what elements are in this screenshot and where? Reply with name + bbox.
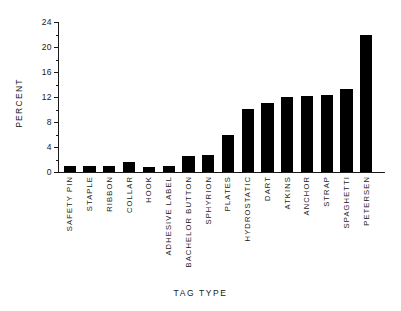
- y-axis-major-tick: [54, 72, 58, 73]
- bar: [301, 96, 313, 172]
- y-axis-tick-label: 0: [28, 168, 52, 177]
- x-axis-tick-label: STAPLE: [84, 176, 95, 276]
- bar: [182, 156, 194, 172]
- y-axis-major-tick: [54, 47, 58, 48]
- x-axis-tick-label: HOOK: [143, 176, 154, 276]
- y-axis-line: [58, 22, 59, 173]
- bar: [202, 155, 214, 172]
- x-axis-tick-label: SPHYRION: [203, 176, 214, 276]
- bar: [321, 95, 333, 173]
- y-axis-tick-label: 12: [28, 93, 52, 102]
- bar: [222, 135, 234, 173]
- bar: [242, 109, 254, 172]
- bar: [123, 162, 135, 172]
- x-axis-tick-label: ATKINS: [282, 176, 293, 276]
- y-axis-minor-tick: [56, 160, 59, 161]
- x-axis-tick-label: HYDROSTATIC: [242, 176, 253, 276]
- y-axis-tick-labels: 04812162024: [28, 0, 52, 311]
- y-axis-major-tick: [54, 172, 58, 173]
- y-axis-tick-label: 20: [28, 43, 52, 52]
- x-axis-tick-label: COLLAR: [124, 176, 135, 276]
- x-axis-tick-label: RIBBON: [104, 176, 115, 276]
- y-axis-major-tick: [54, 147, 58, 148]
- x-axis-tick-label: BACHELOR BUTTON: [183, 176, 194, 276]
- x-axis-tick-label: SPAGHETTI: [341, 176, 352, 276]
- x-axis-tick-label: ANCHOR: [301, 176, 312, 276]
- y-axis-minor-tick: [56, 110, 59, 111]
- y-axis-title: PERCENT: [14, 58, 24, 148]
- bar: [143, 167, 155, 172]
- y-axis-tick-label: 16: [28, 68, 52, 77]
- bar: [163, 166, 175, 172]
- bar: [103, 166, 115, 172]
- x-axis-tick-label: STRAP: [321, 176, 332, 276]
- x-axis-tick-label: DART: [262, 176, 273, 276]
- x-axis-tick-label: PLATES: [222, 176, 233, 276]
- y-axis-minor-tick: [56, 60, 59, 61]
- bar: [281, 97, 293, 172]
- x-axis-tick-label: PETERSEN: [361, 176, 372, 276]
- bar: [340, 89, 352, 172]
- x-axis-tick-labels: SAFETY PINSTAPLERIBBONCOLLARHOOKADHESIVE…: [58, 176, 385, 276]
- x-axis-tick-label: SAFETY PIN: [64, 176, 75, 276]
- plot-area: [58, 22, 385, 172]
- bar-chart-figure: PERCENT 04812162024 SAFETY PINSTAPLERIBB…: [0, 0, 401, 311]
- x-axis-tick-label: ADHESIVE LABEL: [163, 176, 174, 276]
- x-axis-title: TAG TYPE: [0, 288, 401, 298]
- x-axis-line: [58, 172, 385, 173]
- bar: [83, 166, 95, 172]
- y-axis-tick-label: 8: [28, 118, 52, 127]
- y-axis-major-tick: [54, 97, 58, 98]
- y-axis-minor-tick: [56, 35, 59, 36]
- bar: [261, 103, 273, 172]
- y-axis-tick-label: 24: [28, 18, 52, 27]
- bar: [64, 166, 76, 172]
- y-axis-major-tick: [54, 122, 58, 123]
- y-axis-minor-tick: [56, 135, 59, 136]
- y-axis-major-tick: [54, 22, 58, 23]
- y-axis-tick-label: 4: [28, 143, 52, 152]
- y-axis-minor-tick: [56, 85, 59, 86]
- bar: [360, 35, 372, 173]
